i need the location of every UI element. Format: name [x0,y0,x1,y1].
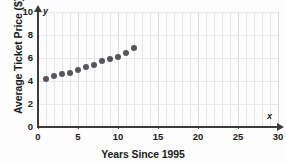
x-tick-mark [78,126,79,129]
gridline-vertical [198,12,199,127]
x-tick-mark [158,126,159,129]
gridline-horizontal [38,35,278,36]
x-tick-label: 5 [66,131,90,142]
gridline-vertical [62,12,63,127]
x-axis-title: Years Since 1995 [0,148,286,160]
x-tick-label: 10 [106,131,130,142]
gridline-vertical [278,12,279,127]
gridline-vertical [214,12,215,127]
gridline-vertical [254,12,255,127]
gridline-vertical [190,12,191,127]
x-axis-letter: x [267,111,272,121]
gridline-vertical [166,12,167,127]
gridline-vertical [126,12,127,127]
data-point [115,54,121,60]
x-tick-mark [238,126,239,129]
x-tick-mark [198,126,199,129]
gridline-horizontal [38,104,278,105]
x-tick-mark [278,126,279,129]
x-tick-mark [38,126,39,129]
gridline-vertical [238,12,239,127]
x-tick-label: 20 [186,131,210,142]
gridline-horizontal [38,81,278,82]
gridline-vertical [150,12,151,127]
y-axis-letter: y [43,6,48,16]
y-axis-line [37,12,39,127]
gridline-vertical [222,12,223,127]
gridline-vertical [110,12,111,127]
gridline-vertical [46,12,47,127]
data-point [75,67,81,73]
plot-area [38,12,278,127]
x-tick-label: 30 [266,131,286,142]
x-tick-label: 0 [26,131,50,142]
gridline-vertical [102,12,103,127]
data-point [131,45,137,51]
gridline-vertical [182,12,183,127]
gridline-vertical [134,12,135,127]
data-point [91,62,97,68]
gridline-horizontal [38,58,278,59]
gridline-vertical [142,12,143,127]
scatter-plot-figure: y x 0246810 051015202530 Average Ticket … [0,0,286,163]
gridline-vertical [54,12,55,127]
x-tick-mark [118,126,119,129]
gridline-vertical [230,12,231,127]
gridline-vertical [174,12,175,127]
y-axis-arrow-icon [34,5,42,12]
gridline-vertical [246,12,247,127]
gridline-vertical [94,12,95,127]
data-point [67,70,73,76]
x-tick-label: 25 [226,131,250,142]
x-tick-label: 15 [146,131,170,142]
gridline-vertical [262,12,263,127]
gridline-vertical [206,12,207,127]
gridline-horizontal [38,12,278,13]
data-point [43,76,49,82]
gridline-vertical [270,12,271,127]
gridline-vertical [158,12,159,127]
y-axis-title: Average Ticket Price ($) [12,0,24,116]
gridline-vertical [118,12,119,127]
